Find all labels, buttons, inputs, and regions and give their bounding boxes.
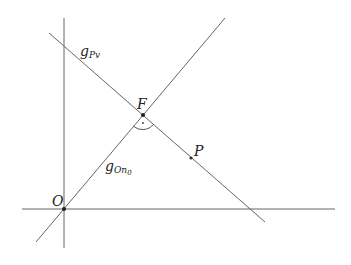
geometry-diagram (0, 0, 351, 265)
label-p: P (194, 144, 203, 158)
label-g-on0-sub: On (114, 165, 127, 175)
label-g-on0-subsub: 0 (127, 169, 131, 177)
label-g-pv: gPv (80, 44, 100, 60)
point-f (141, 113, 145, 117)
label-g-pv-main: g (80, 43, 89, 59)
right-angle-arc (134, 124, 154, 129)
line-g-pv (49, 33, 265, 222)
right-angle-dot (142, 122, 144, 124)
label-o: O (52, 194, 63, 208)
label-g-pv-sub: Pv (89, 50, 100, 60)
label-g-on0-main: g (105, 158, 114, 174)
label-f: F (137, 97, 147, 111)
point-p (189, 156, 192, 159)
label-g-on0: gOn0 (105, 159, 132, 177)
